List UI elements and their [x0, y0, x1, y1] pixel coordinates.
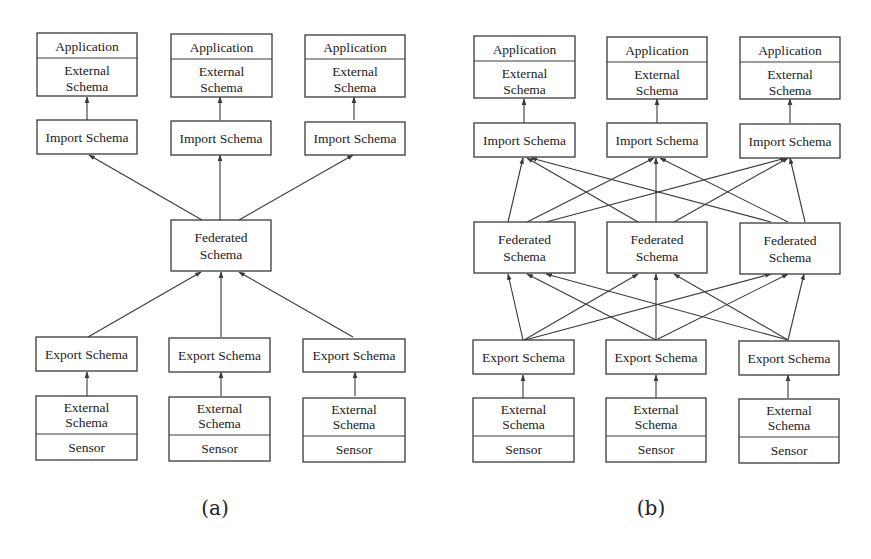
svg-text:Sensor: Sensor — [505, 442, 542, 457]
svg-text:Import Schema: Import Schema — [46, 130, 129, 145]
edge-federated1-import2 — [527, 158, 654, 222]
caption-b: (b) — [637, 496, 665, 520]
edge-export2-federated3 — [656, 274, 788, 340]
svg-text:Schema: Schema — [333, 417, 376, 432]
svg-text:Application: Application — [323, 40, 387, 55]
svg-text:Schema: Schema — [502, 417, 545, 432]
edge-export1-federated — [88, 272, 201, 337]
svg-text:Export Schema: Export Schema — [615, 350, 698, 365]
svg-text:Schema: Schema — [503, 82, 546, 97]
svg-text:Federated: Federated — [194, 230, 247, 245]
edge-federated3-import1 — [531, 158, 771, 222]
svg-text:Import Schema: Import Schema — [749, 134, 832, 149]
svg-text:External: External — [64, 400, 110, 415]
svg-text:External: External — [634, 67, 680, 82]
application-external-box: Application External Schema — [607, 37, 707, 99]
svg-text:Export Schema: Export Schema — [178, 348, 261, 363]
export-schema-box: Export Schema — [739, 341, 839, 375]
import-schema-box: Import Schema — [474, 123, 575, 157]
edge-federated-import1 — [89, 155, 202, 220]
svg-text:External: External — [501, 402, 547, 417]
svg-text:Federated: Federated — [630, 232, 683, 247]
svg-text:Application: Application — [493, 42, 557, 57]
svg-text:External: External — [199, 64, 245, 79]
import-schema-box: Import Schema — [37, 120, 137, 154]
federated-schema-box: Federated Schema — [171, 220, 271, 271]
diagram-b: Application External Schema Application … — [473, 36, 840, 463]
svg-text:Schema: Schema — [636, 249, 679, 264]
svg-text:External: External — [767, 67, 813, 82]
svg-text:Sensor: Sensor — [201, 441, 238, 456]
svg-text:Sensor: Sensor — [771, 443, 808, 458]
edge-export3-federated — [239, 272, 353, 337]
import-schema-box: Import Schema — [607, 123, 707, 157]
import-schema-box: Import Schema — [171, 121, 271, 155]
svg-text:Import Schema: Import Schema — [616, 133, 699, 148]
external-sensor-box: External Schema Sensor — [739, 399, 839, 463]
svg-text:Export Schema: Export Schema — [313, 348, 396, 363]
svg-text:Federated: Federated — [763, 233, 816, 248]
svg-text:Import Schema: Import Schema — [483, 133, 566, 148]
svg-text:Export Schema: Export Schema — [748, 351, 831, 366]
svg-text:Application: Application — [625, 43, 689, 58]
application-external-box: Application External Schema — [740, 37, 840, 99]
edge-export1-federated1 — [508, 274, 523, 340]
svg-text:Export Schema: Export Schema — [45, 347, 128, 362]
federated-architecture-figure: Application External Schema Application … — [0, 0, 871, 559]
export-schema-box: Export Schema — [36, 337, 137, 371]
application-external-box: Application External Schema — [171, 34, 272, 97]
external-sensor-box: External Schema Sensor — [169, 397, 270, 461]
edge-federated3-import3 — [790, 158, 805, 222]
svg-text:External: External — [197, 401, 243, 416]
export-schema-box: Export Schema — [169, 338, 270, 372]
application-external-box: Application External Schema — [37, 33, 137, 96]
svg-text:External: External — [332, 64, 378, 79]
import-schema-box: Import Schema — [305, 122, 405, 155]
caption-a: (a) — [201, 496, 229, 520]
svg-text:Application: Application — [55, 39, 119, 54]
edge-federated2-import3 — [674, 158, 788, 222]
diagram-a: Application External Schema Application … — [36, 33, 405, 462]
application-external-box: Application External Schema — [305, 35, 405, 97]
svg-text:Import Schema: Import Schema — [180, 131, 263, 146]
external-sensor-box: External Schema Sensor — [36, 396, 137, 460]
svg-text:External: External — [64, 63, 110, 78]
edge-export3-federated3 — [788, 274, 804, 340]
export-schema-box: Export Schema — [303, 339, 405, 372]
application-external-box: Application External Schema — [474, 36, 575, 98]
federated-schema-box: Federated Schema — [474, 222, 575, 273]
svg-text:Schema: Schema — [503, 249, 546, 264]
edge-federated1-import1 — [508, 158, 523, 222]
external-sensor-box: External Schema Sensor — [606, 398, 706, 462]
svg-text:Schema: Schema — [200, 80, 243, 95]
svg-text:External: External — [766, 403, 812, 418]
edge-export3-federated2 — [674, 274, 788, 340]
svg-text:External: External — [502, 66, 548, 81]
export-schema-box: Export Schema — [606, 340, 706, 374]
svg-text:Schema: Schema — [768, 418, 811, 433]
svg-text:Schema: Schema — [334, 80, 377, 95]
federated-schema-box: Federated Schema — [740, 223, 840, 274]
svg-text:Schema: Schema — [769, 83, 812, 98]
svg-text:Application: Application — [758, 43, 822, 58]
svg-text:Sensor: Sensor — [68, 440, 105, 455]
svg-text:Application: Application — [190, 40, 254, 55]
federated-schema-box: Federated Schema — [607, 222, 707, 273]
export-schema-box: Export Schema — [473, 340, 574, 374]
svg-text:Schema: Schema — [65, 415, 108, 430]
svg-text:External: External — [331, 402, 377, 417]
svg-text:Schema: Schema — [200, 247, 243, 262]
import-schema-box: Import Schema — [740, 124, 840, 158]
svg-text:Sensor: Sensor — [336, 442, 373, 457]
edge-export2-federated1 — [527, 274, 656, 340]
edge-federated3-import2 — [660, 158, 788, 222]
svg-text:Federated: Federated — [498, 232, 551, 247]
edge-export1-federated3 — [525, 274, 771, 340]
external-sensor-box: External Schema Sensor — [473, 398, 574, 462]
svg-text:Schema: Schema — [636, 83, 679, 98]
svg-text:Export Schema: Export Schema — [482, 350, 565, 365]
svg-text:Schema: Schema — [198, 416, 241, 431]
svg-text:Schema: Schema — [635, 417, 678, 432]
svg-text:Schema: Schema — [769, 250, 812, 265]
svg-text:External: External — [633, 402, 679, 417]
